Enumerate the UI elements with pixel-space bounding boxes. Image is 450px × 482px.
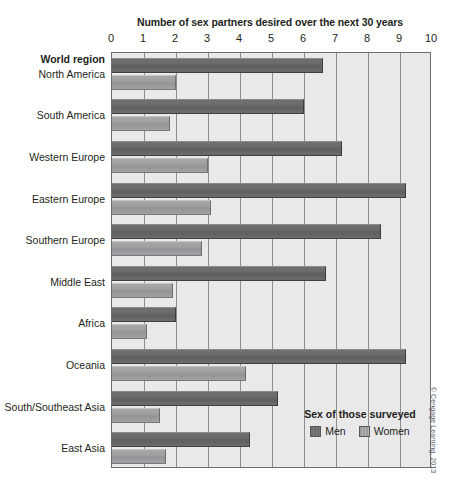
- x-tick-label: 5: [268, 31, 274, 45]
- bar-men: [112, 349, 406, 364]
- x-tick-label: 7: [332, 31, 338, 45]
- bar-women: [112, 241, 202, 256]
- category-label: Eastern Europe: [0, 193, 105, 205]
- legend-swatch-icon: [359, 426, 370, 437]
- copyright-credit-text: © Cengage Learning, 2013: [430, 387, 437, 474]
- gridline: [368, 53, 369, 467]
- category-label: Southern Europe: [0, 234, 105, 246]
- chart-axis-title: Number of sex partners desired over the …: [104, 16, 436, 28]
- bar-men: [112, 183, 406, 198]
- category-label: Western Europe: [0, 151, 105, 163]
- x-axis-tick-labels: 012345678910: [111, 31, 431, 45]
- bar-women: [112, 283, 173, 298]
- category-label: Middle East: [0, 276, 105, 288]
- x-tick-label: 6: [300, 31, 306, 45]
- category-label: South/Southeast Asia: [0, 401, 105, 413]
- category-labels-column: North AmericaSouth AmericaWestern Europe…: [0, 52, 105, 468]
- bar-men: [112, 432, 250, 447]
- bar-women: [112, 200, 211, 215]
- gridline: [336, 53, 337, 467]
- bar-women: [112, 75, 176, 90]
- legend-item: Women: [359, 425, 410, 437]
- bar-chart-figure: Number of sex partners desired over the …: [0, 0, 450, 482]
- bar-men: [112, 266, 326, 281]
- legend-item-label: Men: [325, 425, 345, 437]
- bar-women: [112, 116, 170, 131]
- legend-swatch-icon: [310, 426, 321, 437]
- copyright-credit: © Cengage Learning, 2013: [427, 382, 439, 478]
- x-tick-label: 2: [172, 31, 178, 45]
- x-tick-label: 1: [140, 31, 146, 45]
- bar-men: [112, 99, 304, 114]
- x-tick-label: 8: [364, 31, 370, 45]
- category-label: Africa: [0, 317, 105, 329]
- x-tick-label: 3: [204, 31, 210, 45]
- category-label: South America: [0, 109, 105, 121]
- bar-men: [112, 391, 278, 406]
- gridline: [304, 53, 305, 467]
- category-label: East Asia: [0, 442, 105, 454]
- bar-women: [112, 449, 166, 464]
- legend-item-label: Women: [374, 425, 410, 437]
- category-label: Oceania: [0, 359, 105, 371]
- x-tick-label: 9: [396, 31, 402, 45]
- category-label: North America: [0, 68, 105, 80]
- gridline: [400, 53, 401, 467]
- x-tick-label: 0: [108, 31, 114, 45]
- bar-women: [112, 408, 160, 423]
- plot-area: [111, 52, 431, 468]
- bar-men: [112, 307, 176, 322]
- bar-men: [112, 141, 342, 156]
- chart-legend: Sex of those surveyed MenWomen: [295, 408, 425, 437]
- bar-women: [112, 158, 208, 173]
- x-tick-label: 10: [425, 31, 437, 45]
- bar-women: [112, 324, 147, 339]
- legend-items: MenWomen: [295, 425, 425, 437]
- legend-title: Sex of those surveyed: [295, 408, 425, 420]
- bar-men: [112, 224, 381, 239]
- legend-item: Men: [310, 425, 345, 437]
- bar-men: [112, 58, 323, 73]
- bar-women: [112, 366, 246, 381]
- x-tick-label: 4: [236, 31, 242, 45]
